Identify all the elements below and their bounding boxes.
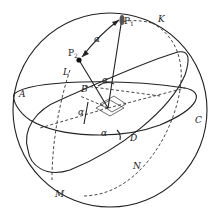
arc-alpha-left: [84, 102, 88, 124]
line-l-m: [52, 70, 70, 180]
label-l: L: [62, 67, 69, 77]
dash-center-right: [108, 88, 185, 108]
label-alpha-d: α: [101, 128, 107, 138]
sphere-diagram: P1 P2 K L B A C D N M α α α α: [0, 0, 216, 211]
label-alpha-top: α: [94, 34, 100, 44]
meridian-kn: [82, 23, 181, 196]
arc-alpha-d: [117, 130, 120, 140]
label-alpha-b: α: [102, 75, 108, 85]
radius-p1: [108, 18, 122, 108]
arrow-p2: [82, 50, 89, 57]
label-b: B: [80, 84, 88, 94]
label-p1: P1: [124, 16, 134, 27]
label-m: M: [54, 189, 65, 199]
center-plane-1: [96, 100, 124, 116]
arc-alpha-p1p2: [82, 20, 119, 57]
dash-center-left: [40, 108, 108, 128]
great-circle-bd: [27, 52, 189, 173]
label-a: A: [18, 89, 26, 99]
label-c: C: [195, 115, 202, 125]
label-alpha-left: α: [78, 107, 84, 117]
center-plane-2: [100, 96, 126, 112]
label-n: N: [132, 161, 142, 171]
label-k: K: [157, 14, 166, 24]
label-p2: P2: [68, 48, 78, 59]
label-d: D: [129, 133, 137, 143]
diagram-canvas: P1 P2 K L B A C D N M α α α α: [0, 0, 216, 211]
